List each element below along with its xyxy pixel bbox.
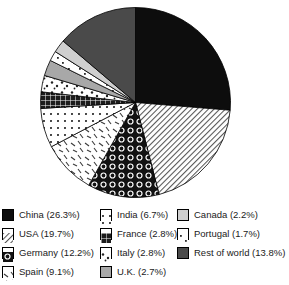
legend-label-canada: Canada (2.2%) <box>194 209 258 221</box>
legend-swatch-china-icon <box>2 209 14 221</box>
legend-item-spain[interactable]: Spain (9.1%) <box>2 262 74 281</box>
legend-item-china[interactable]: China (26.3%) <box>2 205 80 224</box>
legend-swatch-germany-icon <box>2 247 14 259</box>
pie-chart-area <box>0 0 289 203</box>
legend-label-u-k: U.K. (2.7%) <box>117 266 166 278</box>
legend-item-italy[interactable]: Italy (2.8%) <box>100 243 165 262</box>
legend-item-germany[interactable]: Germany (12.2%) <box>2 243 94 262</box>
legend-label-germany: Germany (12.2%) <box>19 247 94 259</box>
legend-label-china: China (26.3%) <box>19 209 80 221</box>
legend-item-u-k[interactable]: U.K. (2.7%) <box>100 262 166 281</box>
legend-item-canada[interactable]: Canada (2.2%) <box>177 205 258 224</box>
legend-swatch-portugal-icon <box>177 228 189 240</box>
pie-chart-svg <box>0 0 289 203</box>
pie-slice[interactable] <box>136 8 231 111</box>
legend-swatch-usa-icon <box>2 228 14 240</box>
legend-label-rest-of-world: Rest of world (13.8%) <box>194 247 285 259</box>
legend-swatch-italy-icon <box>100 247 112 259</box>
legend-swatch-canada-icon <box>177 209 189 221</box>
legend-item-france[interactable]: France (2.8%) <box>100 224 177 243</box>
legend-label-india: India (6.7%) <box>117 209 168 221</box>
legend-item-india[interactable]: India (6.7%) <box>100 205 168 224</box>
legend-swatch-india-icon <box>100 209 112 221</box>
legend-label-france: France (2.8%) <box>117 228 177 240</box>
legend-label-spain: Spain (9.1%) <box>19 266 74 278</box>
legend-item-portugal[interactable]: Portugal (1.7%) <box>177 224 260 243</box>
legend-label-portugal: Portugal (1.7%) <box>194 228 260 240</box>
legend-swatch-rest-of-world-icon <box>177 247 189 259</box>
legend-swatch-spain-icon <box>2 266 14 278</box>
chart-legend: China (26.3%)USA (19.7%)Germany (12.2%)S… <box>0 205 289 280</box>
legend-swatch-u-k-icon <box>100 266 112 278</box>
legend-item-rest-of-world[interactable]: Rest of world (13.8%) <box>177 243 285 262</box>
legend-item-usa[interactable]: USA (19.7%) <box>2 224 74 243</box>
legend-swatch-france-icon <box>100 228 112 240</box>
pie-slices-group <box>41 8 231 198</box>
legend-label-usa: USA (19.7%) <box>19 228 74 240</box>
legend-label-italy: Italy (2.8%) <box>117 247 165 259</box>
